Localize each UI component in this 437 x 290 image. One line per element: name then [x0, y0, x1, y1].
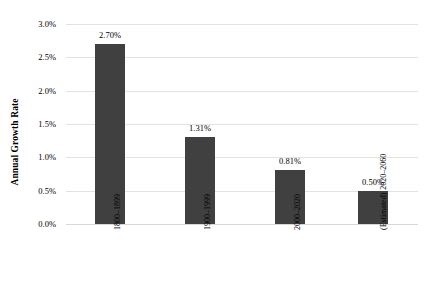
x-category-label-line: 1900–1999 [203, 194, 212, 230]
bar-value-label: 0.50% [343, 177, 403, 187]
x-category-label-line: 2000–2020 [293, 194, 302, 230]
y-tick-label: 2.5% [38, 52, 56, 62]
y-axis-tick-labels: 0.0%0.5%1.0%1.5%2.0%2.5%3.0% [0, 24, 62, 224]
x-axis-category-labels: 1800–18991900–19992000–20202020–2060(Est… [66, 228, 418, 288]
bar-chart-figure: Annual Growth Rate 0.0%0.5%1.0%1.5%2.0%2… [0, 0, 437, 290]
bar-value-label: 2.70% [80, 30, 140, 40]
y-tick-label: 0.0% [38, 219, 56, 229]
y-tick-label: 0.5% [38, 186, 56, 196]
y-tick-label: 2.0% [38, 86, 56, 96]
y-tick-label: 3.0% [38, 19, 56, 29]
y-tick-label: 1.5% [38, 119, 56, 129]
bar-value-label: 1.31% [170, 123, 230, 133]
gridline [66, 24, 418, 25]
bar-value-label: 0.81% [260, 156, 320, 166]
x-category-label-line: 1800–1899 [113, 194, 122, 230]
y-tick-label: 1.0% [38, 152, 56, 162]
x-category-label-line: 2020–2060 [379, 154, 388, 190]
x-category-label-line: (Estimated) [379, 193, 388, 230]
